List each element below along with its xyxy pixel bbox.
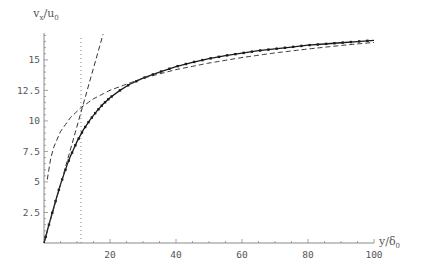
data-point-marker	[101, 104, 103, 106]
y-tick-label: 10	[29, 115, 41, 126]
y-tick-label: 12.5	[17, 85, 40, 96]
y-tick-label: 5	[34, 176, 40, 187]
y-tick-label: 15	[29, 54, 40, 65]
data-point-marker	[74, 144, 76, 146]
data-point-marker	[168, 68, 170, 70]
data-point-marker	[185, 63, 187, 65]
x-tick-label: 40	[170, 249, 182, 260]
y-tick-label: 2.5	[23, 207, 40, 218]
data-point-marker	[94, 112, 96, 114]
data-point-marker	[77, 137, 79, 139]
data-point-marker	[234, 53, 236, 55]
data-point-marker	[193, 61, 195, 63]
data-point-marker	[160, 70, 162, 72]
data-point-marker	[176, 65, 178, 67]
x-tick-label: 80	[302, 249, 314, 260]
series-layer	[44, 34, 374, 243]
axis-ticks	[44, 35, 374, 243]
x-axis-label: y/δ0	[378, 235, 400, 250]
data-point-marker	[284, 47, 286, 49]
x-tick-label: 20	[104, 249, 116, 260]
data-point-marker	[242, 52, 244, 54]
y-axis-label: vx/u0	[32, 7, 58, 22]
data-point-marker	[275, 47, 277, 49]
data-point-marker	[366, 40, 368, 42]
velocity-profile-curve	[44, 40, 374, 243]
data-point-marker	[333, 42, 335, 44]
data-point-marker	[317, 43, 319, 45]
chart: 204060801002.557.51012.515 vx/u0 y/δ0	[0, 0, 424, 271]
data-point-marker	[81, 131, 83, 133]
axis-tick-labels: 204060801002.557.51012.515	[17, 54, 383, 260]
data-point-marker	[110, 95, 112, 97]
data-point-marker	[267, 48, 269, 50]
data-point-marker	[308, 44, 310, 46]
data-point-marker	[341, 41, 343, 43]
data-point-marker	[201, 59, 203, 61]
data-point-marker	[68, 159, 70, 161]
data-point-marker	[91, 116, 93, 118]
x-tick-label: 60	[236, 249, 248, 260]
linear-law-dashed-line	[44, 34, 103, 243]
data-point-marker	[127, 84, 129, 86]
data-point-marker	[350, 41, 352, 43]
data-point-marker	[104, 101, 106, 103]
axes	[44, 33, 374, 243]
data-point-marker	[300, 45, 302, 47]
data-point-marker	[226, 54, 228, 56]
data-point-marker	[209, 57, 211, 59]
data-point-marker	[119, 89, 121, 91]
data-point-marker	[84, 126, 86, 128]
data-point-marker	[87, 121, 89, 123]
data-point-marker	[71, 151, 73, 153]
data-point-marker	[107, 98, 109, 100]
data-point-marker	[292, 46, 294, 48]
data-point-marker	[325, 43, 327, 45]
data-point-marker	[259, 49, 261, 51]
x-tick-label: 100	[365, 249, 382, 260]
data-point-marker	[44, 236, 46, 238]
data-point-marker	[251, 50, 253, 52]
y-tick-label: 7.5	[23, 146, 40, 157]
data-point-marker	[218, 56, 220, 58]
data-point-marker	[97, 108, 99, 110]
data-point-marker	[358, 40, 360, 42]
